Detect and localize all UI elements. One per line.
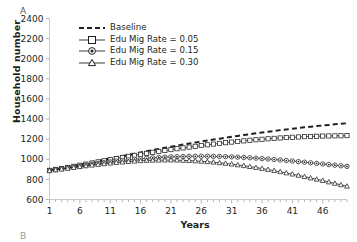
- y-tick-label: 2000: [21, 54, 44, 64]
- series-marker: [145, 151, 149, 155]
- legend-item-edu-mig-030: Edu Mig Rate = 0.30: [78, 57, 199, 69]
- figure-panel-a: A B Household number Years 6008001000120…: [0, 0, 357, 242]
- series-marker: [151, 150, 155, 154]
- legend-item-edu-mig-015: Edu Mig Rate = 0.15: [78, 45, 199, 57]
- legend-key-triangle-icon: [78, 57, 106, 69]
- series-marker: [315, 134, 319, 138]
- series-marker: [169, 148, 173, 152]
- series-marker: [345, 134, 349, 138]
- legend-label: Edu Mig Rate = 0.05: [110, 34, 199, 46]
- x-tick-label: 41: [287, 206, 298, 216]
- series-marker: [193, 144, 197, 148]
- legend-key-dashed-icon: [78, 22, 106, 34]
- series-marker: [260, 137, 264, 141]
- series-marker: [236, 139, 240, 143]
- series-marker: [138, 152, 142, 156]
- series-marker: [217, 141, 221, 145]
- legend-label: Edu Mig Rate = 0.30: [110, 57, 199, 69]
- legend-label: Edu Mig Rate = 0.15: [110, 45, 199, 57]
- series-marker: [181, 146, 185, 150]
- series-marker: [223, 141, 227, 145]
- x-tick-label: 11: [104, 206, 115, 216]
- legend-item-baseline: Baseline: [78, 22, 199, 34]
- legend-item-edu-mig-005: Edu Mig Rate = 0.05: [78, 34, 199, 46]
- y-tick-label: 1600: [21, 94, 44, 104]
- data-series-group: [47, 123, 349, 188]
- y-tick-label: 600: [26, 195, 43, 205]
- series-marker: [199, 143, 203, 147]
- series-marker: [302, 135, 306, 139]
- series-marker: [157, 149, 161, 153]
- series-marker: [308, 134, 312, 138]
- legend-key-circle-dot-icon: [78, 45, 106, 57]
- series-marker: [327, 134, 331, 138]
- legend-key-square-icon: [78, 34, 106, 46]
- x-tick-label: 21: [165, 206, 176, 216]
- chart-legend: Baseline Edu Mig Rate = 0.05 Edu Mig Rat…: [78, 22, 199, 68]
- y-axis-ticks: 60080010001200140016001800200022002400: [21, 14, 50, 205]
- series-marker: [248, 138, 252, 142]
- series-marker: [175, 147, 179, 151]
- x-axis-ticks: 161116212631364146: [47, 200, 347, 216]
- legend-label: Baseline: [110, 22, 146, 34]
- x-tick-label: 1: [47, 206, 53, 216]
- y-tick-label: 2400: [21, 14, 44, 24]
- y-tick-label: 1200: [21, 134, 44, 144]
- series-marker: [278, 136, 282, 140]
- x-tick-label: 31: [226, 206, 237, 216]
- x-tick-label: 36: [256, 206, 268, 216]
- series-marker: [163, 148, 167, 152]
- series-marker: [284, 135, 288, 139]
- series-marker: [339, 134, 343, 138]
- y-tick-label: 1000: [21, 154, 44, 164]
- y-tick-label: 800: [26, 175, 43, 185]
- series-marker: [266, 137, 270, 141]
- x-tick-label: 46: [317, 206, 329, 216]
- x-tick-label: 6: [77, 206, 83, 216]
- series-marker: [230, 140, 234, 144]
- y-tick-label: 1800: [21, 74, 44, 84]
- series-marker: [187, 145, 191, 149]
- series-marker: [272, 136, 276, 140]
- y-tick-label: 2200: [21, 34, 44, 44]
- series-marker: [333, 134, 337, 138]
- series-marker: [211, 142, 215, 146]
- series-marker: [290, 135, 294, 139]
- series-marker: [205, 143, 209, 147]
- x-tick-label: 16: [135, 206, 147, 216]
- y-tick-label: 1400: [21, 114, 44, 124]
- series-marker: [254, 138, 258, 142]
- series-marker: [296, 135, 300, 139]
- series-marker: [242, 139, 246, 143]
- series-marker: [321, 134, 325, 138]
- x-tick-label: 26: [196, 206, 208, 216]
